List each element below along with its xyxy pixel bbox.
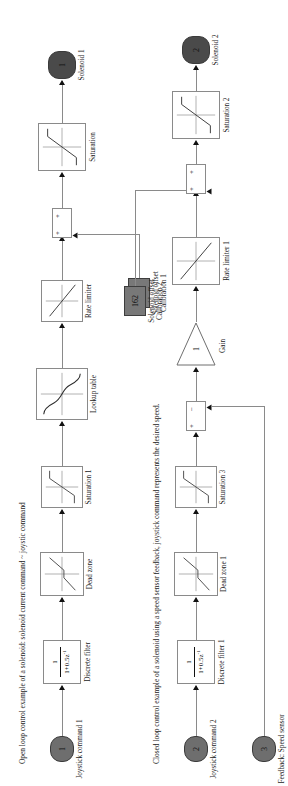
sum-error-sign-a: +	[188, 424, 196, 428]
signal-line	[135, 190, 136, 286]
inport-joystick-command-1[interactable]: 1	[50, 736, 74, 762]
arrow-head	[193, 367, 199, 372]
transfer-function: 1 1+0.5z-1	[44, 641, 80, 683]
arrow-head	[73, 232, 78, 238]
signal-line	[62, 598, 63, 640]
signal-line	[196, 67, 197, 91]
block-lookup-table[interactable]	[36, 368, 88, 420]
block-saturation-3[interactable]	[175, 466, 217, 508]
outport-2-number: 2	[192, 48, 201, 52]
signal-line	[62, 510, 63, 552]
constant-solenoid-offset-2[interactable]: 162	[124, 286, 146, 316]
arrow-head	[59, 323, 65, 328]
saturation-icon	[173, 92, 219, 138]
inport-joystick-command-2[interactable]: 2	[184, 736, 208, 762]
signal-line	[62, 238, 63, 280]
constant-2-value: 162	[131, 295, 140, 307]
block-dead-zone-1[interactable]	[174, 552, 218, 596]
signal-line	[62, 324, 63, 368]
tf-exponent: -1	[196, 650, 201, 654]
dead-zone-icon	[175, 553, 217, 595]
diagram-canvas: Open loop control example of a solenoid:…	[0, 0, 288, 786]
saturation-icon	[176, 467, 216, 507]
outport-1-number: 1	[58, 63, 67, 67]
signal-line	[212, 406, 264, 407]
arrow-head	[59, 509, 65, 514]
block-saturation-2[interactable]	[172, 91, 220, 139]
label-discrete-filter-1: Discrete filter 1	[218, 639, 226, 684]
arrow-head	[59, 421, 65, 426]
arrow-head	[207, 188, 212, 194]
label-saturation: Saturation	[89, 132, 97, 162]
outport-solenoid-1[interactable]: 1	[48, 51, 76, 79]
tf-numerator: 1	[186, 660, 194, 664]
label-solenoid-offset-calibration-2: Solenoid offset Calibration 2	[148, 279, 165, 323]
sum-2-sign-b: +	[188, 170, 196, 174]
label-feedback-speed-sensor: Feedback: Speed sensor	[278, 714, 286, 783]
block-saturation-1[interactable]	[41, 466, 83, 508]
rate-limiter-icon	[42, 281, 82, 321]
tf-denominator-wrap: 1+0.5z-1	[61, 650, 71, 673]
tf-exponent: -1	[62, 650, 67, 654]
label-saturation-1: Saturation 1	[85, 470, 93, 505]
tf-denominator: 1+0.5z	[198, 654, 206, 673]
inport-1-number: 1	[58, 747, 67, 751]
arrow-head	[193, 597, 199, 602]
block-rate-limiter[interactable]	[41, 280, 83, 322]
inport-3-number: 3	[260, 747, 269, 751]
label-saturation-2: Saturation 2	[223, 98, 231, 133]
arrow-head	[193, 509, 199, 514]
label-saturation-3: Saturation 3	[219, 470, 227, 505]
label-solenoid-1: Solenoid 1	[78, 50, 86, 81]
signal-line	[196, 510, 197, 552]
saturation-icon	[42, 467, 82, 507]
block-discrete-filter[interactable]: 1 1+0.5z-1	[43, 640, 81, 684]
label-lookup-table: Lookup table	[90, 375, 98, 413]
signal-line	[196, 598, 197, 640]
block-dead-zone[interactable]	[40, 552, 84, 596]
tf-denominator: 1+0.5z	[64, 654, 72, 673]
outport-solenoid-2[interactable]: 2	[182, 36, 210, 64]
block-discrete-filter-1[interactable]: 1 1+0.5z-1	[177, 640, 215, 684]
arrow-head	[59, 597, 65, 602]
gain-value: 1	[192, 347, 201, 351]
label-dead-zone-1: Dead zone 1	[220, 556, 228, 592]
signal-line	[196, 369, 197, 401]
tf-denominator-wrap: 1+0.5z-1	[195, 650, 205, 673]
signal-line	[196, 142, 197, 164]
label-joystick-command-1: Joystick command 1	[76, 719, 84, 778]
signal-line	[62, 422, 63, 466]
rate-limiter-icon	[173, 238, 219, 284]
block-saturation[interactable]	[38, 123, 86, 171]
arrow-head	[59, 685, 65, 690]
signal-line	[196, 193, 197, 237]
sum-2-sign-a: +	[188, 187, 196, 191]
arrow-head	[193, 685, 199, 690]
signal-line	[264, 406, 265, 736]
label-gain: Gain	[219, 339, 227, 353]
signal-line	[139, 234, 140, 278]
block-rate-limiter-1[interactable]	[172, 237, 220, 285]
lookup-table-icon	[37, 369, 87, 419]
sum-error-sign-b: −	[188, 407, 196, 411]
block-gain[interactable]: 1	[176, 322, 216, 366]
inport-feedback-speed-sensor[interactable]: 3	[252, 736, 276, 762]
arrow-head	[193, 432, 199, 437]
arrow-head	[193, 286, 199, 291]
signal-line	[196, 288, 197, 322]
label-joystick-command-2: Joystick command 2	[210, 719, 218, 778]
transfer-function: 1 1+0.5z-1	[178, 641, 214, 683]
label-rate-limiter-1: Rate limiter 1	[223, 241, 231, 281]
signal-line	[78, 234, 139, 235]
arrow-head	[59, 80, 65, 85]
signal-line	[62, 81, 63, 123]
label-solenoid-2: Solenoid 2	[212, 35, 220, 66]
block-diagram: Open loop control example of a solenoid:…	[0, 0, 288, 786]
label-dead-zone: Dead zone	[86, 559, 94, 590]
tf-numerator: 1	[52, 660, 60, 664]
sum-1-sign-a: +	[54, 231, 62, 235]
sum-1-sign-b: +	[54, 214, 62, 218]
saturation-icon	[39, 124, 85, 170]
dead-zone-icon	[41, 553, 83, 595]
arrow-head	[193, 65, 199, 70]
